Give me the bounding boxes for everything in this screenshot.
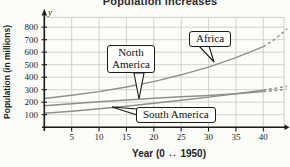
population-chart: Population increases Population (in mill… — [0, 0, 290, 167]
callout-tail-africa — [199, 46, 214, 62]
y-tick-label: 600 — [0, 48, 38, 57]
x-axis-arrow-icon — [285, 124, 290, 130]
y-tick-label: 500 — [0, 61, 38, 70]
y-tick-label: 200 — [0, 98, 38, 107]
y-tick-label: 100 — [0, 111, 38, 120]
y-tick-label: 700 — [0, 36, 38, 45]
x-tick-label: 15 — [116, 133, 136, 142]
x-tick-label: 40 — [253, 133, 273, 142]
callout-tail-north-america — [134, 73, 144, 99]
x-tick-label: 35 — [226, 133, 246, 142]
x-axis-title: Year (0 ↔ 1950) — [109, 148, 229, 159]
callout-south-america: South America — [136, 107, 216, 123]
x-tick-label: 20 — [144, 133, 164, 142]
callout-africa: Africa — [189, 31, 231, 47]
y-axis-arrow-icon — [42, 9, 47, 16]
x-tick-label: 25 — [171, 133, 191, 142]
callout-north-america: North America — [107, 45, 155, 73]
x-tick-label: 30 — [199, 133, 219, 142]
y-axis-variable: y — [48, 7, 52, 17]
chart-title: Population increases — [30, 0, 290, 7]
y-tick-label: 800 — [0, 23, 38, 32]
callout-tail-south-america — [112, 107, 137, 115]
plot-area — [0, 0, 290, 167]
x-tick-label: 10 — [89, 133, 109, 142]
x-tick-label: 5 — [62, 133, 82, 142]
y-tick-label: 300 — [0, 86, 38, 95]
y-tick-label: 400 — [0, 73, 38, 82]
